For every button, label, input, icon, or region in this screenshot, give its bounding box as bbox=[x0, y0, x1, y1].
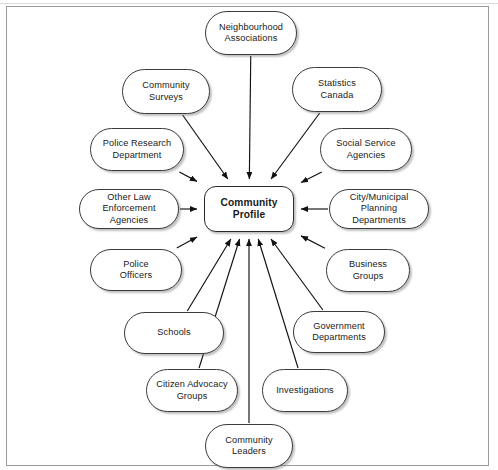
node-label-neighbourhood-associations: Neighbourhood Associations bbox=[215, 22, 287, 45]
edge-community-surveys-to-community-profile bbox=[183, 115, 228, 179]
edge-business-groups-to-community-profile bbox=[301, 236, 325, 248]
node-community-surveys: Community Surveys bbox=[122, 69, 210, 114]
node-label-police-research-department: Police Research Department bbox=[99, 138, 175, 161]
node-label-community-surveys: Community Surveys bbox=[138, 80, 193, 103]
node-label-police-officers: Police Officers bbox=[116, 259, 156, 282]
node-police-research-department: Police Research Department bbox=[90, 128, 184, 171]
node-other-law-enforcement: Other Law Enforcement Agencies bbox=[79, 189, 179, 229]
edge-police-officers-to-community-profile bbox=[177, 237, 197, 248]
diagram-edges-layer bbox=[0, 0, 498, 470]
edge-investigations-to-community-profile bbox=[258, 239, 298, 368]
node-citizen-advocacy-groups: Citizen Advocacy Groups bbox=[146, 369, 238, 412]
edge-group bbox=[177, 56, 328, 423]
edge-schools-to-community-profile bbox=[187, 239, 231, 311]
node-label-community-profile: Community Profile bbox=[217, 197, 282, 222]
node-investigations: Investigations bbox=[262, 369, 348, 412]
node-statistics-canada: Statistics Canada bbox=[292, 67, 382, 112]
node-police-officers: Police Officers bbox=[90, 249, 182, 291]
node-government-departments: Government Departments bbox=[293, 311, 385, 353]
node-city-municipal-planning: City/Municipal Planning Departments bbox=[329, 189, 429, 229]
diagram-canvas: Community ProfileNeighbourhood Associati… bbox=[0, 0, 498, 470]
node-community-profile: Community Profile bbox=[204, 186, 294, 232]
node-label-social-service-agencies: Social Service Agencies bbox=[332, 138, 400, 161]
node-schools: Schools bbox=[124, 312, 224, 354]
node-label-business-groups: Business Groups bbox=[345, 259, 391, 282]
node-business-groups: Business Groups bbox=[326, 249, 410, 292]
node-label-community-leaders: Community Leaders bbox=[221, 435, 276, 458]
edge-government-departments-to-community-profile bbox=[271, 239, 323, 310]
edge-police-research-department-to-community-profile bbox=[179, 172, 197, 181]
node-label-other-law-enforcement: Other Law Enforcement Agencies bbox=[80, 192, 178, 227]
node-label-investigations: Investigations bbox=[272, 385, 338, 397]
node-community-leaders: Community Leaders bbox=[205, 424, 293, 468]
node-social-service-agencies: Social Service Agencies bbox=[320, 128, 412, 171]
node-label-government-departments: Government Departments bbox=[308, 321, 370, 344]
node-label-citizen-advocacy-groups: Citizen Advocacy Groups bbox=[152, 379, 232, 402]
edge-neighbourhood-associations-to-community-profile bbox=[249, 56, 250, 179]
node-label-city-municipal-planning: City/Municipal Planning Departments bbox=[330, 192, 428, 227]
node-label-schools: Schools bbox=[153, 327, 194, 339]
edge-social-service-agencies-to-community-profile bbox=[301, 172, 322, 183]
edge-statistics-canada-to-community-profile bbox=[271, 113, 320, 179]
node-neighbourhood-associations: Neighbourhood Associations bbox=[205, 11, 297, 55]
node-label-statistics-canada: Statistics Canada bbox=[314, 78, 360, 101]
